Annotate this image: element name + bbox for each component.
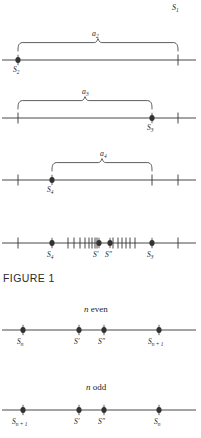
panel-dense-dot-label-3: S3 [147, 251, 153, 259]
panel-a4-brace-label: a4 [100, 150, 107, 158]
panel-dense-dot-label-0: S4 [47, 251, 53, 259]
panel-a2-brace-label: a2 [92, 30, 99, 38]
panel-n-even-dot-label-3: Sn + 1 [148, 338, 163, 346]
panel-dense-dot-label-2: S″ [105, 251, 112, 259]
panel-n-even-title: n even [84, 305, 108, 314]
panel-a2-brace [18, 39, 178, 51]
panel-n-even-dot-label-0: Sn [17, 338, 23, 346]
panel-n-odd-dot-label-3: Sn [154, 418, 160, 426]
panel-a2-point-label-0: S2 [13, 66, 19, 74]
panel-dense-dot-label-1: S′ [93, 251, 98, 259]
panel-a4-point-label-1: S4 [47, 186, 53, 194]
figure-caption: FIGURE 1 [3, 272, 55, 284]
label-s1: S1 [172, 4, 179, 12]
figure-container: S1a2S2a3S3a4S4S4S′S″S3n evenSnS′S″Sn + 1… [0, 0, 201, 438]
panel-a3-point-label-1: S3 [147, 124, 153, 132]
figure-svg-layer [2, 39, 196, 416]
panel-n-even-dot-label-1: S′ [74, 338, 79, 346]
panel-n-odd-title: n odd [86, 383, 106, 392]
panel-a3-brace [18, 97, 152, 109]
panel-n-odd-dot-label-0: Sn + 1 [12, 418, 27, 426]
figure-graphics [0, 0, 201, 438]
panel-n-even-dot-label-2: S″ [98, 338, 105, 346]
panel-a3-brace-label: a3 [82, 88, 89, 96]
panel-n-odd-dot-label-1: S′ [74, 418, 79, 426]
panel-a4-brace [52, 159, 152, 171]
panel-n-odd-dot-label-2: S″ [98, 418, 105, 426]
